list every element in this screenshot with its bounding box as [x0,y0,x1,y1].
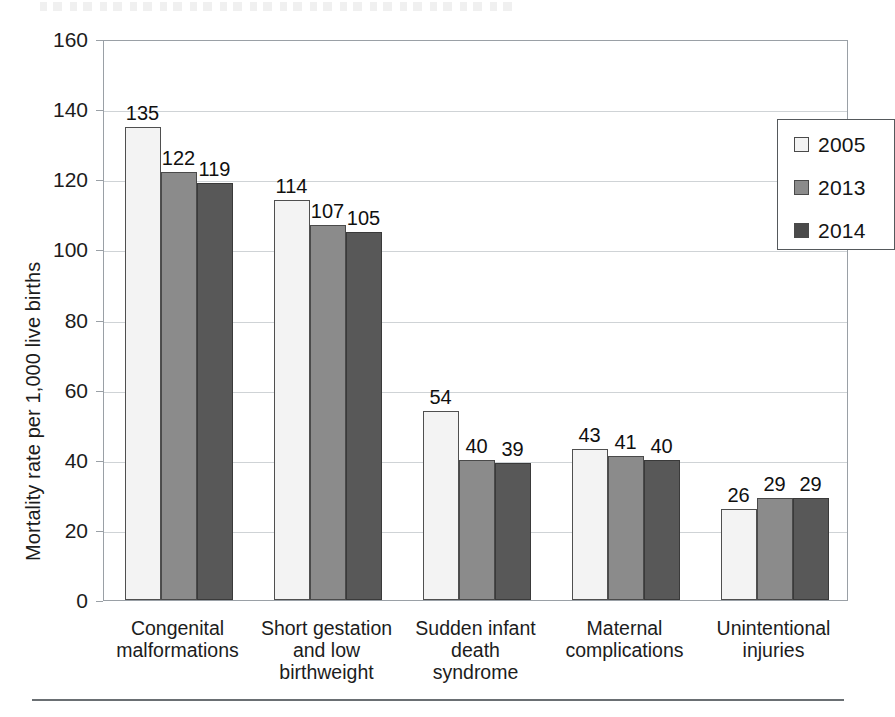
bar [572,449,608,600]
y-axis-tick-mark [96,180,103,181]
y-axis-tick-mark [96,40,103,41]
legend-label-2014: 2014 [818,220,866,241]
legend-label-2013: 2013 [818,177,866,198]
bar-value-label: 40 [632,436,692,456]
bar-value-label: 54 [411,387,471,407]
bar-value-label: 119 [185,159,245,179]
bar [721,509,757,600]
bar-value-label: 114 [262,176,322,196]
y-axis-tick-label: 100 [8,239,88,260]
y-axis-tick-label: 120 [8,169,88,190]
bar-value-label: 135 [113,103,173,123]
bottom-rule [32,699,844,701]
y-axis-tick-label: 160 [8,29,88,50]
bar [608,456,644,600]
y-axis-tick-label: 0 [8,590,88,611]
bar [197,183,233,600]
bar [161,172,197,600]
y-axis-tick-mark [96,250,103,251]
bar [644,460,680,600]
bar [793,498,829,600]
bar-value-label: 105 [334,208,394,228]
legend-item-2005: 2005 [794,134,866,155]
plot-area: 135122119114107105544039434140262929 200… [103,40,848,601]
y-axis-tick-mark [96,461,103,462]
legend: 2005 2013 2014 [777,119,895,250]
plot-inner: 135122119114107105544039434140262929 [104,41,847,600]
legend-item-2013: 2013 [794,177,866,198]
bar-value-label: 29 [781,474,841,494]
legend-item-2014: 2014 [794,220,866,241]
y-axis-tick-mark [96,601,103,602]
bar [757,498,793,600]
y-axis-tick-mark [96,531,103,532]
y-axis-tick-label: 40 [8,450,88,471]
legend-swatch-2005-icon [794,137,809,152]
bar-value-label: 39 [483,439,543,459]
y-axis-tick-mark [96,110,103,111]
y-axis-tick-label: 60 [8,380,88,401]
y-axis-tick-label: 140 [8,99,88,120]
y-axis-tick-label: 80 [8,310,88,331]
y-axis-tick-label: 20 [8,520,88,541]
x-axis-category-label: Unintentional injuries [686,618,862,662]
bar [310,225,346,600]
y-axis-tick-mark [96,391,103,392]
bar [346,232,382,600]
y-axis-tick-mark [96,321,103,322]
bar [125,127,161,600]
legend-swatch-2014-icon [794,223,809,238]
bar [495,463,531,600]
legend-swatch-2013-icon [794,180,809,195]
gridline [104,111,847,112]
legend-label-2005: 2005 [818,134,866,155]
bar [274,200,310,600]
bar [459,460,495,600]
